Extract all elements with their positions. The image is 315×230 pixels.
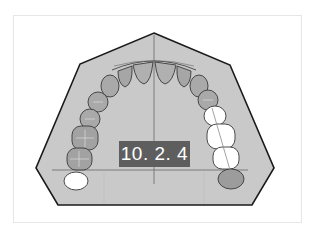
tooth-right-first-molar-missing [207, 124, 235, 149]
tooth-left-third-molar-missing [64, 172, 88, 190]
dental-arch-diagram [0, 0, 315, 230]
tooth-right-second-molar-missing [213, 147, 239, 169]
measurement-label: 10. 2. 4 [119, 141, 190, 167]
tooth-right-third-molar [218, 169, 244, 189]
tooth-right-second-premolar-missing [204, 106, 226, 126]
